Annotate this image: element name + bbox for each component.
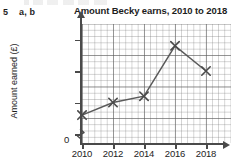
y-axis-break-icon — [78, 130, 85, 140]
series-marker — [171, 42, 179, 50]
series-overlay — [0, 0, 231, 164]
series-markers — [78, 42, 210, 120]
series-line — [82, 46, 206, 115]
series-marker — [202, 67, 210, 75]
series-marker — [78, 111, 86, 119]
worksheet-figure: 5 a, b Amount Becky earns, 2010 to 2018 … — [0, 0, 231, 164]
